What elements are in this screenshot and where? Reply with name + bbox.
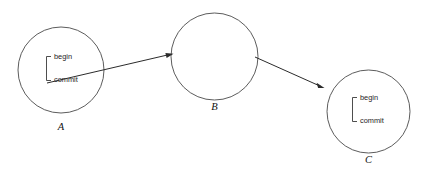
node-c-label: C — [365, 154, 373, 165]
node-c-commit-label: commit — [360, 116, 384, 125]
edge-b-to-c-arrowhead — [317, 83, 325, 88]
node-a-circle[interactable] — [18, 27, 104, 113]
diagram-svg: begin commit A B begin commit C — [0, 0, 427, 174]
node-a-begin-label: begin — [54, 52, 72, 61]
node-c-begin-label: begin — [360, 93, 378, 102]
node-b[interactable]: B — [171, 13, 258, 112]
edge-b-to-c[interactable] — [255, 57, 325, 88]
node-a-label: A — [57, 121, 65, 132]
node-b-circle[interactable] — [171, 13, 258, 100]
node-c-circle[interactable] — [327, 70, 410, 153]
node-b-label: B — [211, 101, 218, 112]
edge-b-to-c-line — [255, 57, 321, 87]
diagram-canvas: begin commit A B begin commit C — [0, 0, 427, 174]
node-c[interactable]: begin commit C — [327, 70, 410, 165]
